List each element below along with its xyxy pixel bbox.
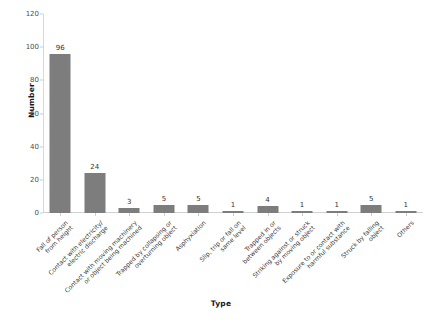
- x-tick-mark: [164, 213, 165, 216]
- x-tick-mark: [198, 213, 199, 216]
- x-tick-mark: [406, 213, 407, 216]
- x-tick-mark: [268, 213, 269, 216]
- x-tick-mark: [371, 213, 372, 216]
- x-tick-mark: [337, 213, 338, 216]
- bar-chart: Number Type 020406080100120 962435514115…: [0, 0, 442, 327]
- x-tick-mark: [233, 213, 234, 216]
- x-tick-mark: [302, 213, 303, 216]
- x-tick-mark: [60, 213, 61, 216]
- x-axis-category-labels: Fall of person from heightContact with e…: [0, 0, 442, 327]
- x-tick-mark: [95, 213, 96, 216]
- x-tick-mark: [129, 213, 130, 216]
